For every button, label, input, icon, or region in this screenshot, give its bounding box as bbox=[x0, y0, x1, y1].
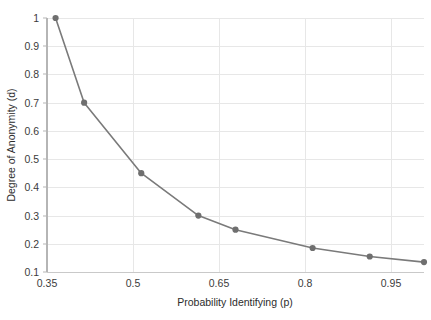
x-tick-label-0.65: 0.65 bbox=[209, 277, 230, 289]
data-point-5[interactable] bbox=[310, 245, 316, 251]
y-tick-label-0.9: 0.9 bbox=[24, 40, 39, 52]
data-point-1[interactable] bbox=[81, 100, 87, 106]
y-tick-label-0.6: 0.6 bbox=[24, 125, 39, 137]
y-axis-title: Degree of Anonymity (d) bbox=[5, 88, 17, 201]
x-axis-title: Probability Identifying (p) bbox=[177, 296, 293, 308]
data-point-7[interactable] bbox=[421, 259, 427, 265]
chart-page: 1 0.9 0.8 0.7 0.6 0.5 0.4 0.3 0.2 0.1 0.… bbox=[0, 0, 431, 320]
data-point-0[interactable] bbox=[52, 15, 58, 21]
x-tick-label-0.95: 0.95 bbox=[381, 277, 402, 289]
x-tick-label-0.8: 0.8 bbox=[298, 277, 313, 289]
x-tick-label-0.35: 0.35 bbox=[37, 277, 58, 289]
y-tick-label-0.8: 0.8 bbox=[24, 68, 39, 80]
data-point-3[interactable] bbox=[195, 212, 201, 218]
y-tick-label-1.0: 1 bbox=[33, 12, 39, 24]
y-tick-label-0.4: 0.4 bbox=[24, 181, 39, 193]
y-tick-label-0.7: 0.7 bbox=[24, 97, 39, 109]
x-tick-label-0.5: 0.5 bbox=[126, 277, 141, 289]
data-point-4[interactable] bbox=[232, 227, 238, 233]
data-point-6[interactable] bbox=[367, 253, 373, 259]
line-chart: 1 0.9 0.8 0.7 0.6 0.5 0.4 0.3 0.2 0.1 0.… bbox=[0, 0, 431, 320]
y-tick-label-0.2: 0.2 bbox=[24, 238, 39, 250]
y-tick-label-0.3: 0.3 bbox=[24, 210, 39, 222]
y-tick-label-0.5: 0.5 bbox=[24, 153, 39, 165]
data-point-2[interactable] bbox=[138, 170, 144, 176]
